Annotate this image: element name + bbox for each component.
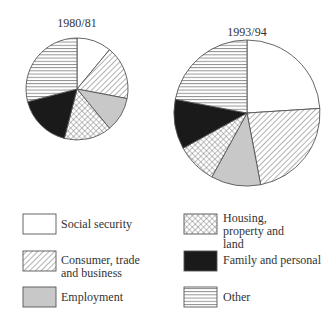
legend-label-employment: Employment — [61, 291, 171, 304]
pie-title-1993-94: 1993/94 — [207, 25, 287, 40]
legend-swatch-employment — [23, 287, 56, 307]
pie-charts-canvas — [0, 0, 332, 326]
legend-label-other: Other — [223, 291, 332, 304]
legend-label-housing-property-land: Housing, property and land — [223, 212, 303, 251]
legend-label-consumer-trade-business: Consumer, trade and business — [61, 254, 157, 280]
legend-label-family-personal: Family and personal — [223, 254, 332, 267]
legend-swatch-family-and-personal — [184, 251, 217, 271]
legend-swatch-other — [184, 287, 217, 307]
legend-swatch-consumer-trade-and-business — [23, 251, 56, 271]
pie-chart-1980-81 — [26, 38, 128, 140]
pie-title-1980-81: 1980/81 — [37, 16, 117, 31]
pie-chart-1993-94 — [174, 40, 320, 186]
legend-label-social-security: Social security — [61, 218, 171, 231]
legend-swatch-social-security — [23, 214, 56, 234]
legend-swatch-housing-property-and-land — [184, 214, 217, 234]
pie-slice-social-security — [247, 40, 320, 113]
